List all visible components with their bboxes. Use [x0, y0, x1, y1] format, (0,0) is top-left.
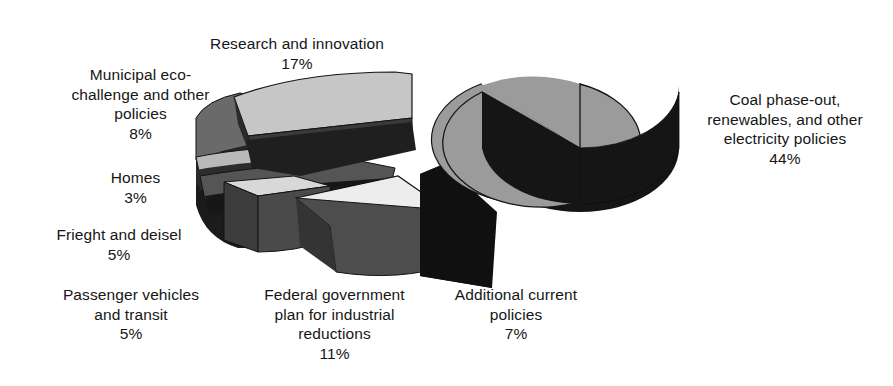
label-passenger-name: Passenger vehicles and transit: [63, 286, 199, 323]
label-freight-percent: 5%: [34, 245, 204, 265]
label-additional-percent: 7%: [437, 324, 595, 344]
label-passenger-vehicles-and-transit: Passenger vehicles and transit 5%: [42, 265, 220, 364]
label-additional-current-policies: Additional current policies 7%: [437, 265, 595, 364]
label-federal-percent: 11%: [247, 344, 422, 364]
label-additional-name: Additional current policies: [455, 286, 577, 323]
label-municipal-eco-challenge: Municipal eco- challenge and other polic…: [48, 45, 233, 164]
label-municipal-percent: 8%: [48, 124, 233, 144]
label-coal-phase-out: Coal phase-out, renewables, and other el…: [690, 70, 880, 189]
label-federal-name: Federal government plan for industrial r…: [264, 286, 405, 343]
label-municipal-name: Municipal eco- challenge and other polic…: [71, 66, 209, 123]
label-passenger-percent: 5%: [42, 324, 220, 344]
pie-chart-figure: Research and innovation 17% Municipal ec…: [0, 0, 893, 386]
label-federal-government-plan: Federal government plan for industrial r…: [247, 265, 422, 384]
label-coal-name: Coal phase-out, renewables, and other el…: [707, 91, 862, 148]
label-research-name: Research and innovation: [210, 35, 384, 52]
label-coal-percent: 44%: [690, 149, 880, 169]
label-homes-name: Homes: [111, 169, 161, 186]
label-freight-name: Frieght and deisel: [56, 226, 181, 243]
